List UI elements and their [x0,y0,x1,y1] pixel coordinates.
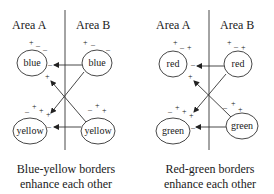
sign: – [90,40,96,49]
bottom-left-label: green [162,125,184,136]
bottom-left-label: yellow [16,125,44,136]
bottom-right-label: green [231,120,253,131]
top-right-label: blue [88,57,106,68]
area-b-header: Area B [76,18,110,32]
sign: + [231,99,236,108]
sign: + [175,103,180,112]
area-b-header: Area B [220,18,254,32]
sign: + [188,72,193,81]
sign: + [189,111,194,120]
sign: – [167,107,173,116]
sign: + [102,106,107,115]
area-a-header: Area A [12,18,47,32]
area-a-header: Area A [156,18,191,32]
sign: + [227,38,232,47]
sign: – [46,122,52,131]
sign: – [233,42,239,51]
cross-arrow-to-bottom-left [51,72,84,113]
cross-arrow-to-bottom-left [194,74,226,112]
sign: – [105,45,111,54]
top-right-label: red [232,58,245,69]
sign: + [45,72,50,81]
sign: – [24,107,30,116]
top-left-label: red [167,58,180,69]
caption-line-1: Red-green borders [166,162,255,176]
sign: + [187,43,192,52]
sign: – [190,60,196,69]
sign: + [83,38,88,47]
sign: + [39,106,44,115]
top-left-label: blue [23,57,41,68]
sign: – [47,60,53,69]
sign: – [87,105,93,114]
sign: – [190,123,196,132]
sign: + [95,101,100,110]
bottom-right-label: yellow [84,125,112,136]
caption-line-2: enhance each other [164,177,256,191]
sign: + [241,43,246,52]
sign: – [42,45,48,54]
cross-arrow-to-top-left [51,81,86,122]
sign: + [46,110,51,119]
sign: – [179,43,185,52]
sign: + [238,105,243,114]
color-opponency-diagram: Area A Area B blue blue yellow yellow + … [0,0,274,194]
caption-line-1: Blue-yellow borders [17,162,116,176]
sign: + [173,38,178,47]
panel-red-green: Area A Area B red red green green + – + … [156,10,258,191]
sign: + [32,102,37,111]
caption-line-2: enhance each other [20,177,112,191]
sign: + [29,38,34,47]
panel-blue-yellow: Area A Area B blue blue yellow yellow + … [12,10,115,191]
sign: – [222,103,228,112]
sign: + [182,107,187,116]
sign: – [35,41,41,50]
